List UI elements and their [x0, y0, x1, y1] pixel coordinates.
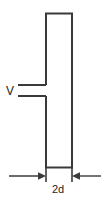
voltage-label: V: [6, 84, 14, 98]
dimension-arrowhead-right: [72, 172, 80, 180]
voltage-leads: [18, 85, 46, 96]
width-dimension-label: 2d: [52, 183, 64, 195]
plate-outline: [45, 13, 73, 168]
width-dimension: [9, 168, 101, 182]
figure-container: V 2d: [0, 0, 108, 197]
dimension-arrowhead-left: [38, 172, 46, 180]
schematic-drawing: V 2d: [0, 0, 108, 197]
